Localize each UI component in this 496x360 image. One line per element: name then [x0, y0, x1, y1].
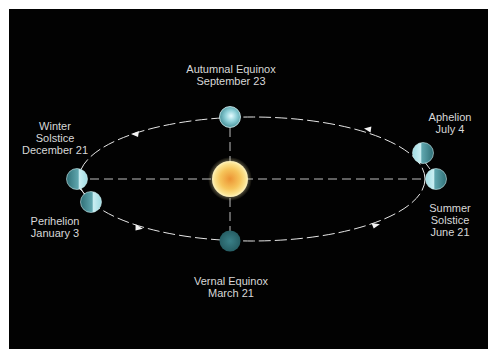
orbit-diagram — [0, 0, 496, 360]
point-name-line2: Solstice — [429, 214, 471, 226]
axis-lines — [90, 128, 426, 232]
point-date: September 23 — [186, 75, 275, 87]
point-date: January 3 — [31, 227, 80, 239]
earth-winter-solstice-icon — [67, 169, 88, 190]
label-autumnal-equinox: Autumnal Equinox September 23 — [186, 63, 275, 87]
point-name: Perihelion — [31, 215, 80, 227]
point-date: March 21 — [194, 287, 268, 299]
label-winter-solstice: Winter Solstice December 21 — [22, 120, 88, 156]
label-aphelion: Aphelion July 4 — [429, 111, 472, 135]
sun-icon — [212, 161, 248, 197]
label-vernal-equinox: Vernal Equinox March 21 — [194, 275, 268, 299]
point-date: July 4 — [429, 123, 472, 135]
earth-autumnal-equinox-icon — [220, 107, 241, 128]
point-name-line1: Summer — [429, 202, 471, 214]
point-name: Autumnal Equinox — [186, 63, 275, 75]
earth-aphelion-icon — [413, 143, 434, 164]
point-date: December 21 — [22, 144, 88, 156]
earth-summer-solstice-icon — [426, 169, 447, 190]
point-name: Vernal Equinox — [194, 275, 268, 287]
point-name-line2: Solstice — [22, 132, 88, 144]
point-name: Aphelion — [429, 111, 472, 123]
point-name-line1: Winter — [22, 120, 88, 132]
earth-perihelion-icon — [81, 192, 102, 213]
arrow-icon — [131, 131, 139, 137]
label-perihelion: Perihelion January 3 — [31, 215, 80, 239]
earth-vernal-equinox-icon — [220, 231, 241, 252]
label-summer-solstice: Summer Solstice June 21 — [429, 202, 471, 238]
point-date: June 21 — [429, 226, 471, 238]
